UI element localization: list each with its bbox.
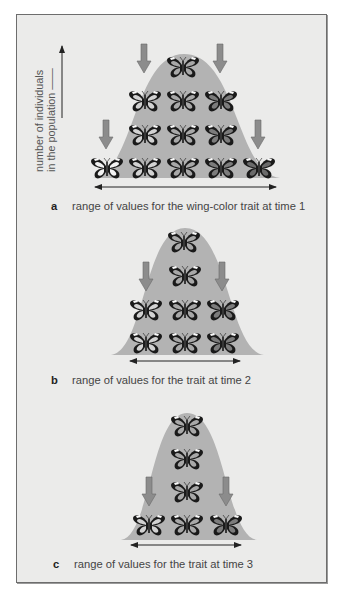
caption-b-text: range of values for the trait at time 2	[72, 374, 251, 386]
selection-arrow-icon	[137, 44, 151, 73]
selection-arrow-icon	[251, 120, 265, 149]
panel-letter-a: a	[51, 200, 72, 212]
panel-letter-b: b	[51, 374, 72, 386]
selection-arrow-icon	[213, 44, 227, 73]
caption-a-text: range of values for the wing-color trait…	[72, 200, 305, 212]
panel-c	[121, 413, 257, 545]
selection-arrow-icon	[99, 120, 113, 149]
y-axis-label-line1: number of individuals	[33, 68, 45, 172]
caption-b: brange of values for the trait at time 2	[51, 374, 251, 386]
panel-a	[91, 44, 280, 187]
panel-letter-c: c	[53, 558, 74, 570]
caption-c-text: range of values for the trait at time 3	[74, 558, 253, 570]
y-axis-label: number of individuals in the population …	[38, 50, 52, 190]
caption-a: arange of values for the wing-color trai…	[51, 200, 305, 212]
panel-b	[111, 228, 264, 361]
caption-c: crange of values for the trait at time 3	[53, 558, 253, 570]
y-axis-label-line2: in the population ——	[45, 68, 57, 172]
